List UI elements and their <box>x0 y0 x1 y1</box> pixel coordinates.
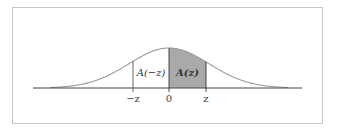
tick-label-minus-z: −z <box>126 93 140 104</box>
area-z-label: A(z) <box>175 67 199 78</box>
area-minus-z-label: A(−z) <box>136 67 166 78</box>
tick-label-zero: 0 <box>166 93 172 104</box>
tick-label-z: z <box>203 93 208 104</box>
figure-frame <box>13 8 323 124</box>
normal-curve-diagram: A(−z) A(z) −z 0 z <box>0 0 337 133</box>
